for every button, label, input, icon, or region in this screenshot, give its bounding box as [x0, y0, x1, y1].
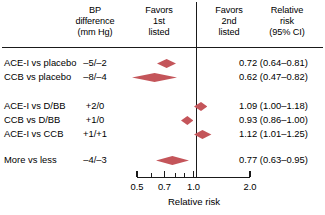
row-relative-risk-ci: 1.12 (1.01–1.25)	[239, 129, 325, 139]
diamond-marker[interactable]	[156, 156, 189, 165]
x-axis-tick	[164, 171, 165, 177]
x-axis-tick-label: 0.7	[149, 181, 179, 192]
diamond-marker[interactable]	[194, 102, 207, 111]
diamond-marker[interactable]	[157, 59, 176, 68]
header-divider-rule	[2, 47, 323, 48]
x-axis-tick-label: 0.5	[122, 181, 152, 192]
row-label: CCB vs D/BB	[4, 115, 60, 125]
row-bp-difference: –5/–2	[62, 58, 128, 68]
x-axis-tick	[184, 173, 185, 178]
x-axis-tick	[151, 173, 152, 178]
diamond-marker[interactable]	[181, 116, 193, 125]
row-relative-risk-ci: 0.72 (0.64–0.81)	[239, 58, 325, 68]
diamond-marker[interactable]	[194, 130, 211, 139]
row-relative-risk-ci: 1.09 (1.00–1.18)	[239, 101, 325, 111]
x-axis-tick-label: 1.0	[179, 181, 209, 192]
row-bp-difference: –8/–4	[62, 72, 128, 82]
x-axis-tick	[249, 171, 250, 177]
row-relative-risk-ci: 0.77 (0.63–0.95)	[239, 155, 325, 165]
x-axis-tick	[193, 171, 194, 177]
column-header-favors-first-listed: Favors 1st listed	[130, 5, 188, 39]
x-axis-title: Relative risk	[124, 196, 264, 207]
row-bp-difference: +2/0	[62, 101, 128, 111]
x-axis-tick-label: 2.0	[235, 181, 265, 192]
forest-plot: BP difference (mm Hg) Favors 1st listed …	[0, 0, 325, 215]
row-relative-risk-ci: 0.62 (0.47–0.82)	[239, 72, 325, 82]
column-header-bp-difference: BP difference (mm Hg)	[62, 5, 128, 39]
row-bp-difference: +1/0	[62, 115, 128, 125]
diamond-marker[interactable]	[132, 73, 177, 82]
row-label: ACE-I vs D/BB	[4, 101, 65, 111]
x-axis-tick	[175, 173, 176, 178]
row-relative-risk-ci: 0.93 (0.86–1.00)	[239, 115, 325, 125]
reference-line-no-effect	[196, 2, 198, 178]
row-label: ACE-I vs CCB	[4, 129, 63, 139]
x-axis-tick	[136, 171, 137, 177]
column-header-relative-risk: Relative risk (95% CI)	[252, 5, 322, 39]
row-label: More vs less	[4, 155, 57, 165]
row-bp-difference: –4/–3	[62, 155, 128, 165]
column-header-favors-second-listed: Favors 2nd listed	[203, 5, 255, 39]
row-bp-difference: +1/+1	[62, 129, 128, 139]
